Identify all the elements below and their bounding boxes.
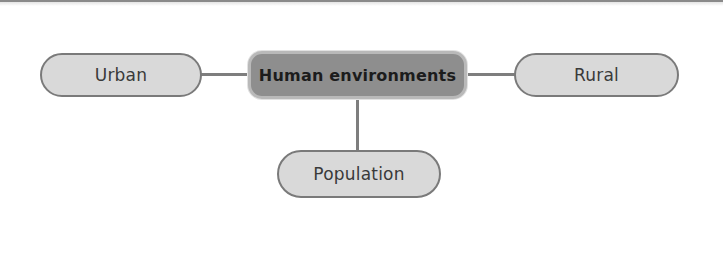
connector-population [356,97,359,151]
central-node-label: Human environments [259,66,456,85]
branch-node-label: Population [313,164,404,184]
branch-node-rural: Rural [514,53,679,97]
branch-node-population: Population [277,150,441,198]
page-top-shadow [0,2,723,6]
branch-node-label: Rural [574,65,619,85]
branch-node-urban: Urban [40,53,202,97]
connector-urban [200,73,250,76]
connector-rural [465,73,515,76]
central-node: Human environments [248,51,467,99]
branch-node-label: Urban [95,65,147,85]
